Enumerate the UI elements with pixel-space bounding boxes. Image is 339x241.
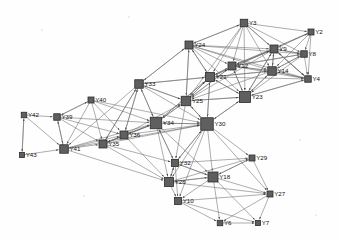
node-layer: Y3Y2Y24Y9Y8Y12Y14Y21Y33Y4Y25Y23Y40Y42Y39…: [20, 19, 324, 226]
graph-node-y41[interactable]: Y41: [60, 145, 81, 154]
graph-node-y36[interactable]: Y36: [120, 131, 141, 139]
node-square[interactable]: [181, 96, 191, 106]
node-label: Y42: [28, 111, 40, 118]
node-label: Y36: [129, 131, 141, 138]
node-label: Y23: [252, 93, 264, 100]
graph-node-y12[interactable]: Y12: [228, 62, 249, 70]
node-label: Y6: [224, 219, 232, 226]
graph-node-y18[interactable]: Y18: [208, 172, 231, 182]
node-square[interactable]: [268, 67, 277, 76]
graph-node-y6[interactable]: Y6: [217, 219, 232, 226]
node-square[interactable]: [228, 62, 236, 70]
node-square[interactable]: [201, 118, 214, 131]
node-label: Y33: [144, 80, 156, 87]
node-label: Y34: [163, 119, 175, 126]
node-square[interactable]: [208, 172, 218, 182]
graph-node-y4[interactable]: Y4: [305, 75, 321, 82]
graph-node-y35[interactable]: Y35: [99, 140, 120, 148]
node-label: Y18: [219, 173, 231, 180]
graph-canvas: Y3Y2Y24Y9Y8Y12Y14Y21Y33Y4Y25Y23Y40Y42Y39…: [0, 0, 339, 241]
node-square[interactable]: [305, 76, 312, 83]
graph-edge: [64, 149, 163, 180]
graph-node-y34[interactable]: Y34: [150, 117, 174, 129]
node-square[interactable]: [150, 117, 162, 129]
graph-edge: [186, 50, 189, 101]
node-label: Y27: [274, 190, 286, 197]
graph-edge: [159, 130, 175, 163]
node-label: Y32: [180, 159, 192, 166]
graph-node-y23[interactable]: Y23: [240, 92, 264, 103]
node-label: Y2: [315, 28, 323, 35]
node-square[interactable]: [270, 45, 278, 53]
graph-node-y40[interactable]: Y40: [88, 96, 107, 103]
graph-node-y33[interactable]: Y33: [135, 80, 156, 89]
node-label: Y30: [214, 120, 226, 127]
network-graph-figure: Y3Y2Y24Y9Y8Y12Y14Y21Y33Y4Y25Y23Y40Y42Y39…: [0, 0, 339, 241]
node-label: Y21: [216, 73, 228, 80]
graph-node-y9[interactable]: Y9: [270, 45, 287, 53]
graph-edge: [103, 144, 163, 179]
node-label: Y8: [308, 50, 316, 57]
node-square[interactable]: [249, 155, 255, 161]
graph-node-y42[interactable]: Y42: [21, 111, 39, 118]
node-label: Y40: [95, 96, 107, 103]
node-label: Y39: [61, 113, 73, 120]
node-square[interactable]: [267, 191, 273, 197]
node-label: Y12: [237, 62, 249, 69]
node-square[interactable]: [165, 178, 174, 187]
node-square[interactable]: [256, 221, 261, 226]
node-square[interactable]: [88, 97, 94, 103]
graph-node-y26[interactable]: Y26: [165, 178, 187, 187]
node-label: Y43: [26, 151, 38, 158]
node-square[interactable]: [175, 198, 182, 205]
node-square[interactable]: [135, 80, 144, 89]
node-square[interactable]: [120, 131, 128, 139]
node-square[interactable]: [99, 140, 107, 148]
graph-node-y14[interactable]: Y14: [268, 67, 289, 76]
node-label: Y4: [312, 75, 320, 82]
node-label: Y29: [256, 154, 268, 161]
graph-edge: [22, 119, 24, 155]
graph-edge: [244, 23, 245, 90]
graph-node-y7[interactable]: Y7: [256, 219, 270, 226]
node-square[interactable]: [172, 160, 179, 167]
graph-node-y39[interactable]: Y39: [54, 113, 73, 120]
graph-edge: [252, 158, 268, 190]
graph-node-y24[interactable]: Y24: [185, 41, 206, 49]
node-square[interactable]: [206, 73, 215, 82]
graph-node-y2[interactable]: Y2: [308, 28, 323, 35]
node-square[interactable]: [60, 145, 69, 154]
node-label: Y9: [279, 45, 287, 52]
node-label: Y3: [249, 19, 257, 26]
graph-edge: [67, 100, 91, 144]
graph-edge: [224, 194, 270, 221]
graph-node-y30[interactable]: Y30: [201, 118, 226, 131]
node-square[interactable]: [185, 41, 193, 49]
graph-edge: [207, 124, 212, 171]
graph-node-y27[interactable]: Y27: [267, 190, 286, 197]
node-label: Y7: [262, 219, 270, 226]
node-square[interactable]: [21, 112, 27, 118]
graph-edge: [233, 23, 244, 61]
node-square[interactable]: [308, 29, 314, 35]
graph-node-y32[interactable]: Y32: [172, 159, 192, 166]
node-label: Y25: [192, 97, 204, 104]
graph-edge: [124, 135, 164, 177]
graph-node-y25[interactable]: Y25: [181, 96, 203, 106]
node-square[interactable]: [217, 220, 223, 226]
node-square[interactable]: [54, 114, 61, 121]
node-square[interactable]: [240, 19, 248, 27]
node-square[interactable]: [301, 51, 308, 58]
node-label: Y14: [277, 67, 289, 74]
node-label: Y41: [69, 145, 81, 152]
graph-node-y10[interactable]: Y10: [175, 197, 195, 204]
graph-node-y21[interactable]: Y21: [206, 73, 228, 82]
graph-node-y8[interactable]: Y8: [301, 50, 317, 57]
node-square[interactable]: [240, 92, 251, 103]
node-label: Y10: [183, 197, 195, 204]
graph-node-y3[interactable]: Y3: [240, 19, 257, 27]
node-label: Y35: [108, 140, 120, 147]
node-square[interactable]: [20, 153, 25, 158]
graph-edge: [178, 201, 254, 222]
graph-node-y29[interactable]: Y29: [249, 154, 268, 161]
